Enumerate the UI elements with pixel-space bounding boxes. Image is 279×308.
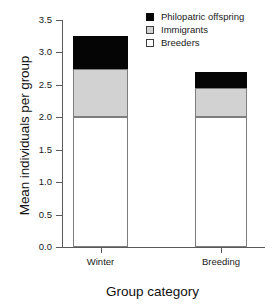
y-tick-mark [56, 117, 62, 118]
bar-segment-philopatric [195, 72, 247, 88]
x-tick-label-winter: Winter [56, 256, 146, 267]
bar-breeding [195, 20, 247, 247]
y-tick-mark [56, 20, 62, 21]
legend-label: Philopatric offspring [161, 11, 244, 22]
y-tick-mark [56, 182, 62, 183]
y-tick-label: 2.5 [12, 79, 52, 90]
legend-swatch-icon-breeders [146, 39, 154, 47]
y-tick-mark [56, 85, 62, 86]
legend-label: Breeders [161, 37, 200, 48]
x-tick-label-breeding: Breeding [176, 256, 266, 267]
y-tick-label: 0.0 [12, 241, 52, 252]
bar-segment-immigrants [73, 69, 128, 118]
x-axis-line [62, 247, 265, 248]
y-tick-mark [56, 150, 62, 151]
x-tick-mark [101, 247, 102, 253]
bar-segment-breeders [195, 117, 247, 247]
legend-item-philopatric-offspring: Philopatric offspring [146, 10, 244, 23]
legend-item-immigrants: Immigrants [146, 23, 244, 36]
x-tick-mark [221, 247, 222, 253]
y-tick-label: 2.0 [12, 111, 52, 122]
y-axis-line [62, 20, 63, 248]
legend-label: Immigrants [161, 24, 208, 35]
bar-segment-immigrants [195, 88, 247, 117]
y-tick-label: 3.0 [12, 46, 52, 57]
y-tick-label: 3.5 [12, 14, 52, 25]
y-tick-mark [56, 52, 62, 53]
y-tick-mark [56, 247, 62, 248]
legend-swatch-icon-philopatric [146, 13, 154, 21]
y-tick-label: 1.5 [12, 144, 52, 155]
x-axis-title: Group category [40, 284, 265, 299]
bar-segment-philopatric [73, 36, 128, 68]
y-tick-mark [56, 215, 62, 216]
legend: Philopatric offspring Immigrants Breeder… [146, 10, 244, 49]
y-tick-label: 0.5 [12, 209, 52, 220]
legend-swatch-icon-immigrants [146, 26, 154, 34]
legend-item-breeders: Breeders [146, 36, 244, 49]
stacked-bar-chart: Mean individuals per group Group categor… [0, 0, 279, 308]
y-tick-label: 1.0 [12, 176, 52, 187]
bar-winter [73, 20, 128, 247]
bar-segment-breeders [73, 117, 128, 247]
